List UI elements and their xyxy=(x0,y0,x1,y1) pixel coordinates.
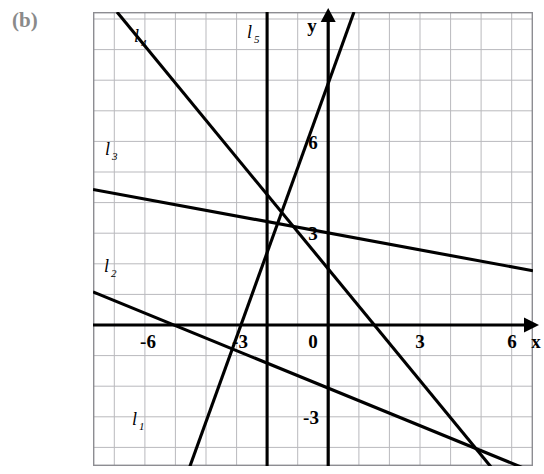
y-tick-label-3: 3 xyxy=(308,223,318,244)
origin-tick-label: 0 xyxy=(308,331,318,352)
line-label-l4-subscript: 4 xyxy=(141,37,147,49)
line-label-l2-letter: l xyxy=(104,256,109,276)
line-label-l2-subscript: 2 xyxy=(111,267,117,279)
x-axis-label: x xyxy=(531,331,541,352)
panel-label: (b) xyxy=(12,10,38,31)
y-tick-label-6: 6 xyxy=(308,132,318,153)
y-axis-label: y xyxy=(307,15,317,36)
x-tick-label-3: 3 xyxy=(415,331,425,352)
x-tick-label-neg6: -6 xyxy=(140,331,156,352)
line-label-l5-subscript: 5 xyxy=(254,33,260,45)
y-tick-label-neg3: -3 xyxy=(303,407,319,428)
x-tick-label-neg3: -3 xyxy=(232,331,248,352)
line-label-l5-letter: l xyxy=(247,22,252,42)
line-label-l3-letter: l xyxy=(105,139,110,159)
figure-panel: (b) xyxy=(0,0,544,474)
coordinate-plane: x y 0 -6 -3 3 6 6 3 -3 l 1 l 2 l 3 l 4 xyxy=(0,0,544,474)
line-label-l1-subscript: 1 xyxy=(139,420,145,432)
line-label-l1-letter: l xyxy=(132,409,137,429)
line-label-l4-letter: l xyxy=(134,26,139,46)
x-tick-label-6: 6 xyxy=(507,331,517,352)
line-label-l3-subscript: 3 xyxy=(111,150,118,162)
